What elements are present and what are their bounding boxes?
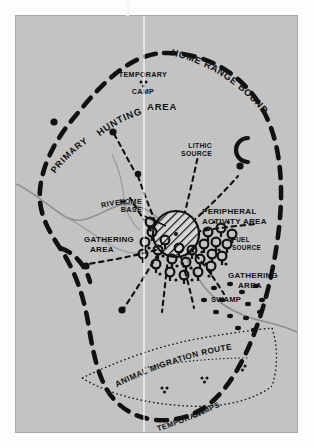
- scan-artifact-top: [126, 0, 129, 16]
- label-fuel-source-line2: SOURCE: [232, 244, 262, 251]
- label-swamp: SWAMP: [211, 295, 241, 304]
- label-lithic-source-line2: SOURCE: [181, 150, 212, 157]
- label-primary: PRIMARY: [49, 135, 90, 175]
- site-dot: [50, 118, 57, 125]
- home-range-map: HOME RANGE BOUNDARY TEMPORARY CAMP PRIMA…: [16, 16, 297, 432]
- site-dot: [109, 128, 116, 135]
- label-home-range-boundary: HOME RANGE BOUNDARY: [16, 16, 271, 116]
- label-temporary-camp-line2: CAMP: [132, 87, 154, 96]
- label-gathering-right-line1: GATHERING: [228, 271, 278, 280]
- site-dot: [82, 262, 89, 269]
- label-area: AREA: [147, 101, 177, 112]
- label-peripheral-line2: ACTIVITY AREA: [202, 217, 267, 226]
- site-dot: [135, 171, 141, 177]
- label-animal-migration-route: ANIMAL MIGRATION ROUTE: [114, 342, 233, 389]
- site-dot: [118, 306, 125, 313]
- lithic-source-symbol: [236, 138, 248, 170]
- label-fuel-source-line1: FUEL: [232, 236, 250, 243]
- label-lithic-source-line1: LITHIC: [188, 142, 212, 149]
- label-hunting: HUNTING: [94, 105, 143, 138]
- label-peripheral-line1: PERIPHERAL: [202, 207, 257, 216]
- label-gathering-left-line1: GATHERING: [84, 235, 134, 244]
- label-camps: CAMPS: [191, 400, 221, 420]
- label-home-base-line2: BASE: [121, 205, 142, 214]
- label-gathering-left-line2: AREA: [90, 245, 114, 254]
- label-temporary-camp-line1: TEMPORARY: [119, 70, 167, 79]
- figure-root: HOME RANGE BOUNDARY TEMPORARY CAMP PRIMA…: [0, 0, 314, 448]
- map-panel: HOME RANGE BOUNDARY TEMPORARY CAMP PRIMA…: [16, 16, 297, 432]
